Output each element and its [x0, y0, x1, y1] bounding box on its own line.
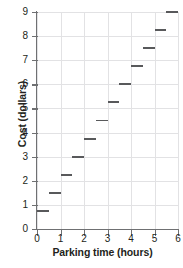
- x-axis-tick-label: 4: [121, 234, 141, 244]
- step-segment: [143, 47, 155, 49]
- step-segment: [166, 11, 178, 13]
- step-segment: [96, 120, 108, 122]
- step-segment: [131, 65, 143, 67]
- gridline-horizontal: [37, 205, 178, 206]
- y-axis-tick: [32, 205, 38, 206]
- step-segment: [37, 210, 49, 212]
- x-axis-tick-label: 3: [98, 234, 118, 244]
- y-axis-tick: [32, 36, 38, 37]
- y-axis-tick: [32, 12, 38, 13]
- y-axis-tick-label: 2: [4, 176, 28, 186]
- y-axis-tick: [32, 108, 38, 109]
- y-axis-tick-label: 6: [4, 79, 28, 89]
- step-segment: [84, 138, 96, 140]
- gridline-vertical: [84, 12, 85, 229]
- x-axis-tick-label: 0: [27, 234, 47, 244]
- y-axis-line: [36, 11, 37, 230]
- gridline-horizontal: [37, 12, 178, 13]
- x-axis-tick-label: 2: [74, 234, 94, 244]
- gridline-vertical: [108, 12, 109, 229]
- y-axis-tick: [32, 60, 38, 61]
- y-axis-tick: [32, 133, 38, 134]
- gridline-vertical: [61, 12, 62, 229]
- step-segment: [49, 192, 61, 194]
- gridline-horizontal: [37, 181, 178, 182]
- y-axis-tick-label: 8: [4, 31, 28, 41]
- y-axis-tick-label: 5: [4, 103, 28, 113]
- gridline-horizontal: [37, 108, 178, 109]
- y-axis-tick: [32, 157, 38, 158]
- x-axis-tick-label: 5: [145, 234, 165, 244]
- step-segment: [72, 156, 84, 158]
- gridline-horizontal: [37, 157, 178, 158]
- x-axis-title: Parking time (hours): [22, 246, 183, 258]
- gridline-horizontal: [37, 36, 178, 37]
- step-segment: [155, 29, 167, 31]
- x-axis-tick-label: 1: [51, 234, 71, 244]
- gridline-horizontal: [37, 60, 178, 61]
- step-segment: [108, 101, 120, 103]
- plot-area: [37, 12, 178, 229]
- y-axis-tick-label: 4: [4, 128, 28, 138]
- step-chart: Cost (dollars) Parking time (hours) 0123…: [0, 0, 183, 268]
- x-axis-tick-label: 6: [168, 234, 183, 244]
- gridline-horizontal: [37, 133, 178, 134]
- y-axis-tick-label: 7: [4, 55, 28, 65]
- step-segment: [119, 83, 131, 85]
- gridline-vertical: [131, 12, 132, 229]
- y-axis-tick-label: 0: [4, 224, 28, 234]
- y-axis-tick-label: 9: [4, 7, 28, 17]
- y-axis-tick: [32, 181, 38, 182]
- y-axis-tick-label: 3: [4, 152, 28, 162]
- gridline-vertical: [178, 12, 179, 229]
- y-axis-tick: [32, 84, 38, 85]
- gridline-vertical: [155, 12, 156, 229]
- y-axis-tick-label: 1: [4, 200, 28, 210]
- gridline-horizontal: [37, 84, 178, 85]
- step-segment: [61, 174, 73, 176]
